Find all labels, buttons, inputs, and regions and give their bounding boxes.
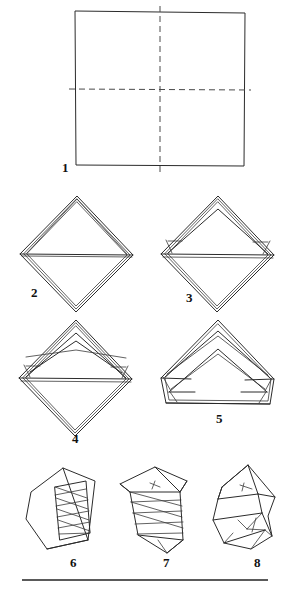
step-label-2: 2 [31,286,38,299]
step-label-5: 5 [216,412,223,425]
step-8-figure [213,465,275,549]
step-label-6: 6 [70,556,77,569]
step-6-figure [26,468,95,549]
step-label-4: 4 [72,432,79,445]
step-4-figure [19,320,132,436]
step-label-8: 8 [254,556,261,569]
origami-diagram-canvas [0,0,289,592]
step-1-figure [69,6,251,172]
step-label-7: 7 [163,556,170,569]
step-label-1: 1 [62,161,69,174]
step-5-figure [161,320,274,404]
diagram-page: 1 2 3 4 5 6 7 8 [0,0,289,592]
step-label-3: 3 [186,291,193,304]
step-3-figure [161,196,274,312]
step-7-figure [120,467,187,553]
